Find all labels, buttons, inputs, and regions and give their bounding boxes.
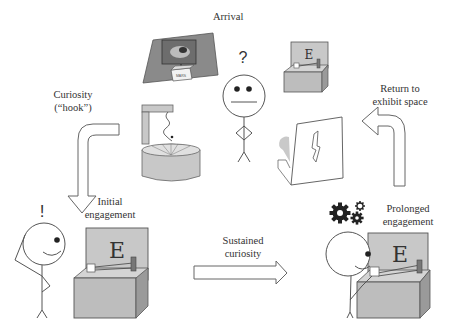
label-curiosity-line1: Curiosity — [50, 88, 96, 101]
exhibit-small: E — [284, 42, 328, 92]
exhibit-initial: E — [74, 228, 148, 318]
label-sustained-curiosity: Sustained curiosity — [213, 234, 273, 260]
gears-icon — [330, 201, 367, 227]
label-curiosity-hook: Curiosity (“hook”) — [50, 88, 96, 114]
label-initial-engagement: Initial engagement — [83, 195, 137, 221]
sustained-curiosity-arrow — [194, 261, 287, 284]
label-return-line2: exhibit space — [367, 95, 433, 108]
label-curiosity-line2: (“hook”) — [50, 101, 96, 114]
exhibit-letter: E — [109, 238, 125, 263]
label-sustained-line1: Sustained — [213, 234, 273, 247]
label-prolonged-line2: engagement — [380, 215, 436, 228]
label-prolonged-engagement: Prolonged engagement — [380, 202, 436, 228]
poster-box-label: MARS — [176, 74, 187, 78]
exhibit-letter: E — [305, 48, 314, 62]
exclamation-mark-icon: ! — [40, 202, 45, 221]
label-sustained-line2: curiosity — [213, 247, 273, 260]
initial-engagement-visitor: ! — [15, 202, 65, 318]
label-initial-line1: Initial — [83, 195, 137, 208]
exhibit-letter: E — [392, 242, 408, 267]
basin-hook-exhibit — [142, 105, 200, 181]
label-return-line1: Return to — [367, 82, 433, 95]
card-exhibit — [278, 117, 343, 185]
question-mark-icon: ? — [239, 49, 248, 66]
label-prolonged-line1: Prolonged — [380, 202, 436, 215]
label-return-to-exhibit: Return to exhibit space — [367, 82, 433, 108]
label-initial-line2: engagement — [83, 208, 137, 221]
return-arrow — [362, 107, 405, 186]
arrival-visitor: ? — [223, 49, 265, 162]
mars-poster-exhibit: MARS — [143, 33, 218, 83]
diagram-canvas: MARS ? E — [0, 0, 450, 328]
label-arrival: Arrival — [213, 10, 243, 23]
